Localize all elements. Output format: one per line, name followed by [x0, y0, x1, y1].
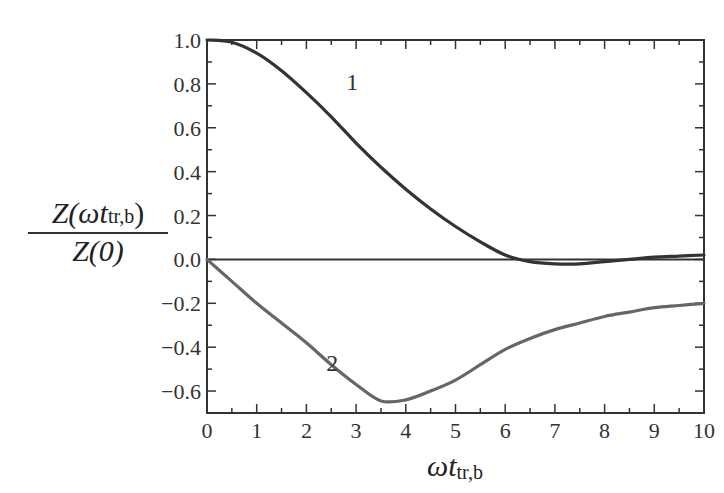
y-num-sub: tr,b	[108, 205, 134, 227]
x-axis-title: ωttr,b	[427, 449, 483, 483]
curve-2	[207, 259, 704, 402]
y-axis-title-denominator: Z(0)	[28, 234, 168, 268]
axis-tick-labels: 012345678910−0.6−0.4−0.20.00.20.40.60.81…	[161, 28, 715, 443]
curve-1	[207, 40, 704, 264]
x-tick-label: 7	[549, 418, 560, 443]
x-tick-label: 0	[202, 418, 213, 443]
y-tick-label: 0.0	[174, 247, 202, 272]
x-tick-label: 2	[301, 418, 312, 443]
y-axis-title-numerator: Z(ωttr,b)	[28, 196, 168, 234]
y-tick-label: 0.6	[174, 116, 202, 141]
y-tick-label: 0.4	[174, 160, 202, 185]
x-tick-label: 9	[649, 418, 660, 443]
y-tick-label: −0.6	[161, 379, 201, 404]
x-tick-label: 3	[351, 418, 362, 443]
x-tick-label: 10	[693, 418, 715, 443]
y-num-close: )	[134, 196, 144, 229]
data-series	[207, 40, 704, 402]
y-axis-title: Z(ωttr,b) Z(0)	[28, 196, 168, 268]
y-tick-label: 0.2	[174, 204, 202, 229]
y-num-z: Z(	[52, 196, 79, 229]
y-tick-label: 1.0	[174, 28, 202, 53]
y-tick-label: −0.4	[161, 335, 201, 360]
x-tick-label: 6	[500, 418, 511, 443]
y-num-omega: ωt	[78, 196, 108, 229]
curve-label-2: 2	[326, 350, 338, 376]
x-tick-label: 4	[400, 418, 411, 443]
y-tick-label: −0.2	[161, 291, 201, 316]
x-tick-label: 1	[251, 418, 262, 443]
x-axis-title-sub: tr,b	[457, 461, 483, 483]
x-tick-label: 5	[450, 418, 461, 443]
curve-label-1: 1	[346, 69, 358, 95]
x-tick-label: 8	[599, 418, 610, 443]
x-axis-title-main: ωt	[427, 449, 457, 482]
y-tick-label: 0.8	[174, 72, 202, 97]
